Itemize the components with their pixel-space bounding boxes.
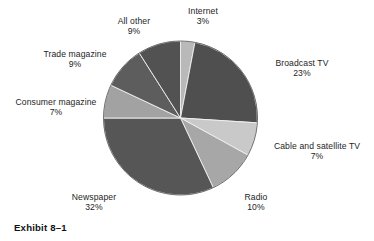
slice-label-radio: Radio 10%	[231, 192, 281, 213]
slice-label-all-other-value: 9%	[104, 26, 164, 36]
figure-caption: Exhibit 8–1	[14, 222, 67, 233]
slice-label-consumer-magazine: Consumer magazine 7%	[2, 97, 110, 118]
slice-label-internet: Internet 3%	[173, 6, 233, 27]
slice-label-broadcast-tv-value: 23%	[262, 68, 342, 78]
slice-label-all-other-name: All other	[104, 16, 164, 26]
slice-label-internet-name: Internet	[173, 6, 233, 16]
slice-label-consumer-magazine-value: 7%	[2, 107, 110, 117]
slice-label-newspaper-name: Newspaper	[56, 192, 132, 202]
slice-label-broadcast-tv-name: Broadcast TV	[262, 58, 342, 68]
slice-label-all-other: All other 9%	[104, 16, 164, 37]
slice-label-newspaper: Newspaper 32%	[56, 192, 132, 213]
slice-label-cable-satellite-tv-name: Cable and satellite TV	[261, 141, 373, 151]
slice-label-cable-satellite-tv: Cable and satellite TV 7%	[261, 141, 373, 162]
slice-label-cable-satellite-tv-value: 7%	[261, 151, 373, 161]
slice-label-radio-name: Radio	[231, 192, 281, 202]
pie-slice-group	[104, 41, 258, 195]
slice-label-trade-magazine-name: Trade magazine	[29, 49, 121, 59]
slice-label-trade-magazine-value: 9%	[29, 59, 121, 69]
slice-label-trade-magazine: Trade magazine 9%	[29, 49, 121, 70]
slice-label-broadcast-tv: Broadcast TV 23%	[262, 58, 342, 79]
slice-label-newspaper-value: 32%	[56, 202, 132, 212]
pie-chart-figure: Internet 3% Broadcast TV 23% Cable and s…	[0, 0, 374, 241]
slice-label-consumer-magazine-name: Consumer magazine	[2, 97, 110, 107]
slice-label-internet-value: 3%	[173, 16, 233, 26]
slice-label-radio-value: 10%	[231, 202, 281, 212]
